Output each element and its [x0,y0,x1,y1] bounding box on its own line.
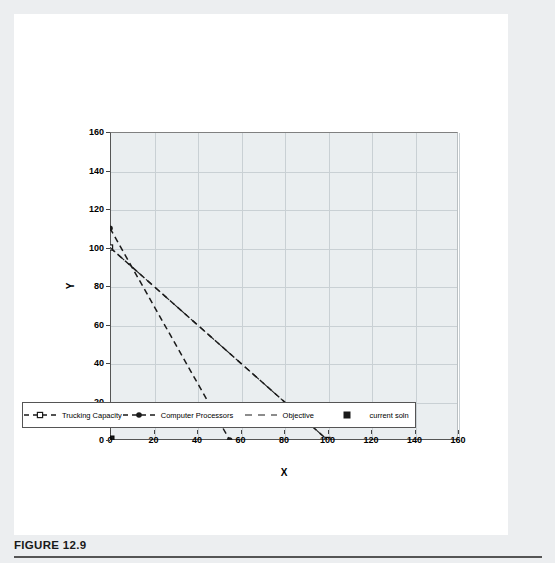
legend-item-trucking-capacity[interactable]: Trucking Capacity [23,409,122,421]
x-axis-tick-label: 60 [235,435,245,445]
legend-label: Objective [283,411,314,420]
x-axis-tick-label: 20 [148,435,158,445]
y-axis-tick [106,286,110,287]
y-axis-tick-label: 80 [94,281,104,291]
y-axis-tick [106,325,110,326]
legend-swatch-trucking-capacity [23,409,57,421]
series-marker-computer-processors [110,225,113,231]
x-axis-tick-label: 140 [407,435,422,445]
chart-legend: Trucking CapacityComputer ProcessorsObje… [22,402,416,428]
x-axis-tick-label: 120 [363,435,378,445]
y-axis-tick-label: 40 [94,358,104,368]
chart-series-layer [110,132,458,440]
x-axis-tick [371,430,372,434]
y-axis-tick-label: 60 [94,320,104,330]
caption-rule [14,556,542,558]
figure-caption: FIGURE 12.9 [14,539,86,551]
x-axis-tick-label: 160 [450,435,465,445]
x-axis-tick [415,430,416,434]
y-axis-tick [106,171,110,172]
x-axis-tick [197,430,198,434]
y-axis-tick [106,363,110,364]
x-axis-tick-label: 100 [320,435,335,445]
legend-swatch-current-soln [330,409,364,421]
x-axis-tick [458,430,459,434]
legend-label: Trucking Capacity [62,411,122,420]
legend-item-current-soln[interactable]: current soln [324,409,415,421]
legend-swatch-computer-processors [122,409,156,421]
x-axis-title: X [110,467,458,478]
x-axis-tick [241,430,242,434]
y-axis-tick [106,209,110,210]
y-axis-tick-label: 160 [89,127,104,137]
gridline-vertical [459,133,460,439]
chart-container: X Y 020406080100120140160020406080100120… [76,122,486,512]
legend-label: Computer Processors [161,411,234,420]
x-axis-tick [328,430,329,434]
legend-swatch-objective [244,409,278,421]
y-axis-tick-label: 100 [89,243,104,253]
x-axis-tick-label: 40 [192,435,202,445]
y-axis-tick-label: 0 [99,435,104,445]
y-axis-tick [106,132,110,133]
y-axis-tick [106,248,110,249]
y-axis-tick-label: 140 [89,166,104,176]
figure-card: X Y 020406080100120140160020406080100120… [14,14,508,535]
legend-item-computer-processors[interactable]: Computer Processors [122,409,234,421]
y-axis-tick-label: 120 [89,204,104,214]
y-axis-tick [106,440,110,441]
legend-item-objective[interactable]: Objective [233,409,324,421]
y-axis-title: Y [65,283,76,290]
x-axis-tick [110,430,111,434]
legend-label: current soln [369,411,408,420]
figure-page: X Y 020406080100120140160020406080100120… [0,0,555,563]
x-axis-tick [284,430,285,434]
x-axis-tick [154,430,155,434]
x-axis-tick-label: 80 [279,435,289,445]
